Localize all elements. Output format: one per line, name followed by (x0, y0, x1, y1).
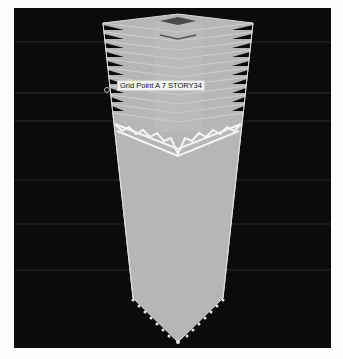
building-model-canvas[interactable] (14, 8, 331, 348)
circle-marker-icon[interactable] (104, 87, 110, 93)
model-viewport[interactable]: Grid Point A 7 STORY34 (14, 8, 331, 348)
grid-point-tooltip: Grid Point A 7 STORY34 (117, 80, 205, 91)
